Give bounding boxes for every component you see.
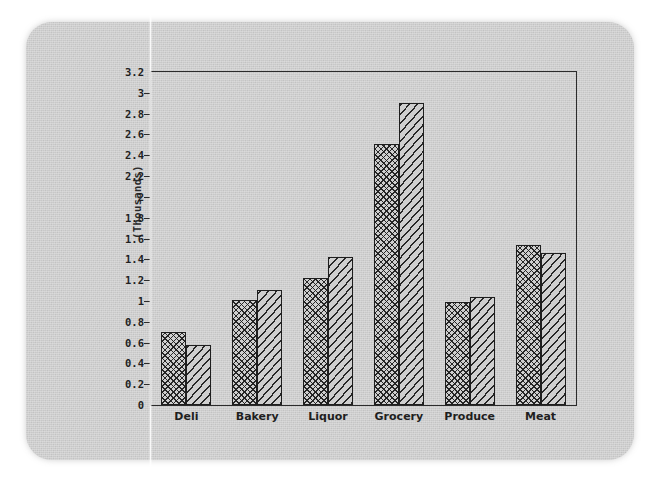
x-category-label: Grocery (368, 410, 430, 430)
bar (161, 332, 186, 405)
y-tick-label: 0.6 (125, 336, 144, 350)
y-tick-label: 2.8 (125, 107, 144, 121)
y-tick-label: 1.6 (125, 232, 144, 246)
bar-group (445, 297, 495, 405)
x-category-label: Bakery (226, 410, 288, 430)
bar-groups (151, 72, 576, 405)
bar (186, 345, 211, 405)
bar-group (374, 103, 424, 405)
y-tick-label: 1.4 (125, 252, 144, 266)
bar (516, 245, 541, 405)
x-axis-category-labels: DeliBakeryLiquorGroceryProduceMeat (151, 410, 576, 430)
bar-chart-figure: (Thousands) 3.232.82.62.42.221.81.61.41.… (0, 0, 659, 482)
bar (232, 300, 257, 405)
y-tick-label: 2.2 (125, 169, 144, 183)
scanned-chart-page: (Thousands) 3.232.82.62.42.221.81.61.41.… (0, 0, 659, 482)
plot-area (151, 72, 576, 405)
y-tick-label: 0.2 (125, 377, 144, 391)
y-tick-label: 0.4 (125, 356, 144, 370)
bar (445, 302, 470, 405)
bar (303, 278, 328, 405)
x-category-label: Meat (510, 410, 572, 430)
x-category-label: Produce (439, 410, 501, 430)
y-tick-label: 0.8 (125, 315, 144, 329)
y-axis-tick-labels: 3.232.82.62.42.221.81.61.41.210.80.60.40… (96, 64, 144, 412)
bar (541, 253, 566, 405)
bar (399, 103, 424, 405)
bar-group (161, 332, 211, 405)
y-tick-label: 2.6 (125, 127, 144, 141)
bar-group (232, 290, 282, 406)
bar (374, 144, 399, 405)
y-tick-label: 1.8 (125, 211, 144, 225)
x-category-label: Deli (155, 410, 217, 430)
x-category-label: Liquor (297, 410, 359, 430)
bar (328, 257, 353, 405)
y-tick-label: 2.4 (125, 148, 144, 162)
bar (470, 297, 495, 405)
bar-group (516, 245, 566, 405)
y-tick-label: 3.2 (125, 65, 144, 79)
y-tick-label: 0 (138, 398, 144, 412)
bar-group (303, 257, 353, 405)
y-tick-label: 1.2 (125, 273, 144, 287)
bar (257, 290, 282, 406)
